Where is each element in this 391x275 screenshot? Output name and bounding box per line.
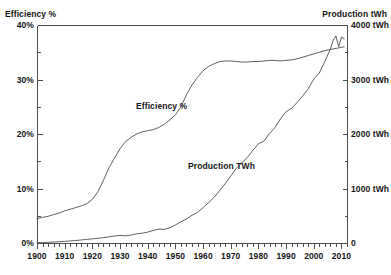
x-tick-label: 1920 [83,251,102,261]
y-tick-label: 30% [17,75,34,85]
x-tick-label: 1950 [166,251,185,261]
x-tick-label: 1900 [27,251,46,261]
chart-container: Efficiency % Production tWh 0%10%20%30%4… [0,0,391,275]
x-tick-label: 1960 [193,251,212,261]
axis-frame [38,26,348,244]
x-tick-label: 1940 [138,251,157,261]
x-tick-label: 2010 [332,251,351,261]
series-lines [37,36,344,243]
y2-tick-label: 2000 tWh [351,129,389,139]
series-label-production: Production TWh [188,161,255,171]
x-tick-label: 1980 [249,251,268,261]
y2-tick-label: 3000 tWh [351,75,389,85]
y2-tick-label: 1000 tWh [351,184,389,194]
x-tick-label: 1970 [221,251,240,261]
x-tick-label: 1990 [276,251,295,261]
y-tick-label: 10% [17,184,34,194]
y-tick-label: 20% [17,129,34,139]
y-tick-label: 40% [17,20,34,30]
x-tick-label: 2000 [304,251,323,261]
y2-tick-label: 0 [351,238,356,248]
x-tick-label: 1910 [55,251,74,261]
x-tick-label: 1930 [110,251,129,261]
y-tick-label: 0% [22,238,35,248]
series-label-efficiency: Efficiency % [136,101,187,111]
series-line-production-twh [37,36,344,243]
plot-area [0,0,391,275]
y2-tick-label: 4000 tWh [351,20,389,30]
series-line-efficiency [37,47,344,219]
